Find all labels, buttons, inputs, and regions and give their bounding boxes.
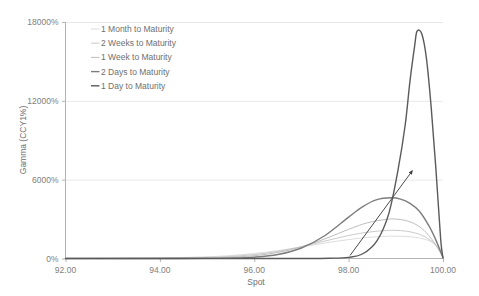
y-tick-label: 12000%	[27, 96, 59, 106]
annotations-group	[350, 171, 412, 256]
x-tick-label: 98.00	[338, 265, 360, 275]
legend-label-1: 2 Weeks to Maturity	[101, 38, 177, 48]
chart-canvas: 0%6000%12000%18000% 92.0094.0096.0098.00…	[0, 0, 479, 296]
legend-label-3: 2 Days to Maturity	[101, 67, 170, 77]
y-tick-label: 18000%	[27, 17, 59, 27]
legend-label-2: 1 Week to Maturity	[101, 52, 172, 62]
series-line-2	[66, 219, 444, 259]
y-tick-label: 0%	[46, 254, 59, 264]
y-tick-label: 6000%	[32, 175, 59, 185]
x-tick-label: 92.00	[55, 265, 77, 275]
y-tick-labels-group: 0%6000%12000%18000%	[27, 17, 59, 264]
series-line-1	[66, 230, 444, 258]
y-axis-title: Gamma (CCY1%)	[18, 106, 28, 175]
series-line-4	[66, 30, 444, 259]
legend: 1 Month to Maturity2 Weeks to Maturity1 …	[91, 24, 177, 91]
x-axis-title: Spot	[247, 277, 265, 287]
gamma-vs-spot-chart: 0%6000%12000%18000% 92.0094.0096.0098.00…	[0, 0, 479, 296]
x-tick-label: 94.00	[149, 265, 171, 275]
legend-label-4: 1 Day to Maturity	[101, 81, 166, 91]
annotation-arrow	[350, 171, 412, 256]
series-line-0	[66, 236, 444, 258]
x-tick-labels-group: 92.0094.0096.0098.00100.00	[55, 265, 456, 275]
series-line-3	[66, 198, 444, 259]
series-group	[66, 30, 444, 259]
legend-label-0: 1 Month to Maturity	[101, 24, 175, 34]
x-tick-label: 100.00	[430, 265, 456, 275]
y-tick-marks-group	[62, 23, 66, 260]
x-tick-label: 96.00	[244, 265, 266, 275]
